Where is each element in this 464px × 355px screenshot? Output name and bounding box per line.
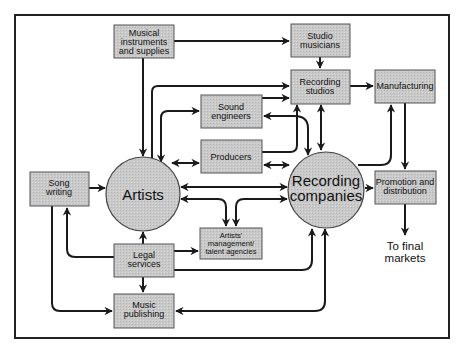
node-music-publishing: Music publishing — [114, 294, 174, 328]
svg-text:markets: markets — [385, 252, 426, 264]
svg-text:services: services — [127, 259, 161, 269]
svg-text:To final: To final — [387, 240, 423, 252]
node-musical-instruments: Musical instruments and supplies — [114, 25, 174, 58]
node-promotion-distribution: Promotion and distribution — [375, 171, 436, 204]
edge-legal-song-writing — [67, 208, 114, 257]
node-studio-musicians: Studio musicians — [291, 24, 350, 57]
svg-text:Manufacturing: Manufacturing — [376, 81, 433, 91]
svg-text:and supplies: and supplies — [119, 46, 170, 56]
svg-text:companies: companies — [290, 187, 363, 204]
node-sound-engineers: Sound engineers — [201, 95, 262, 128]
svg-text:writing: writing — [45, 187, 72, 197]
edge-recording-companies-manufacturing — [358, 105, 391, 165]
svg-text:engineers: engineers — [211, 111, 251, 121]
svg-text:Artists: Artists — [122, 186, 164, 203]
svg-text:studios: studios — [306, 86, 335, 96]
svg-text:publishing: publishing — [124, 309, 165, 319]
node-recording-studios: Recording studios — [291, 70, 350, 104]
edge-producers-recording-studios — [262, 105, 297, 152]
node-producers: Producers — [201, 140, 262, 173]
svg-text:talent agencies: talent agencies — [205, 247, 256, 256]
node-song-writing: Song writing — [30, 172, 89, 206]
node-artists-management: Artists' management/ talent agencies — [200, 228, 262, 259]
edge-song-writing-music-publishing — [52, 206, 112, 311]
music-industry-diagram: Musical instruments and supplies Studio … — [0, 0, 464, 355]
edge-artists-management — [181, 199, 226, 226]
node-legal-services: Legal services — [114, 244, 174, 277]
svg-text:Producers: Producers — [210, 152, 252, 162]
svg-text:musicians: musicians — [300, 40, 341, 50]
edge-recording-companies-management — [236, 199, 287, 226]
node-recording-companies: Recording companies — [288, 152, 364, 228]
node-artists: Artists — [106, 157, 180, 231]
svg-text:distribution: distribution — [383, 186, 427, 196]
edge-artists-sound-engineers — [161, 111, 199, 162]
node-final-markets: To final markets — [385, 240, 426, 264]
node-manufacturing: Manufacturing — [375, 70, 435, 103]
